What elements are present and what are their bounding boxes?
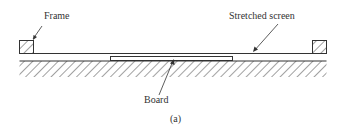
right-frame [313, 41, 327, 54]
frame-label: Frame [44, 11, 70, 21]
board-label: Board [144, 95, 168, 105]
left-frame [20, 41, 34, 54]
board [111, 57, 233, 61]
figure-caption: (a) [170, 114, 181, 124]
frame-leader-arrow [33, 26, 42, 40]
stretched-screen-label: Stretched screen [229, 11, 295, 21]
screen-leader-arrow [253, 24, 278, 52]
